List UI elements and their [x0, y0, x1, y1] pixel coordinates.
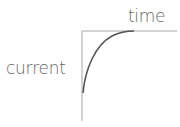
x-axis-label: time [128, 8, 165, 25]
current-curve [83, 31, 134, 93]
y-axis-label: current [6, 60, 66, 77]
